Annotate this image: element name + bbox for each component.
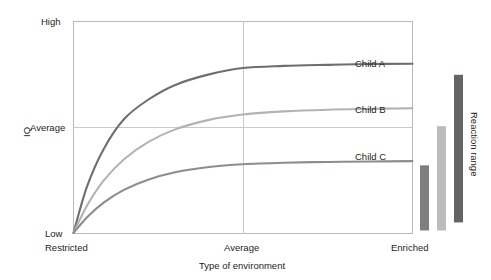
x-tick-average: Average — [224, 243, 259, 253]
x-tick-restricted: Restricted — [45, 243, 88, 253]
label-child-b: Child B — [355, 105, 386, 115]
label-child-a: Child A — [355, 59, 385, 69]
y-tick-average: Average — [30, 123, 65, 133]
reaction-range-bar-child-b — [437, 126, 446, 230]
reaction-range-bar-child-a — [454, 75, 463, 223]
y-axis-title: IQ — [22, 127, 32, 137]
chart-canvas — [0, 0, 491, 280]
x-tick-enriched: Enriched — [391, 243, 429, 253]
reaction-range-bar-child-c — [420, 165, 429, 230]
reaction-range-label: Reaction range — [470, 112, 480, 176]
label-child-c: Child C — [355, 152, 386, 162]
y-tick-low: Low — [45, 229, 62, 239]
y-tick-high: High — [41, 17, 61, 27]
x-axis-title: Type of environment — [199, 261, 285, 271]
reaction-range-figure: High Average Low IQ Restricted Average E… — [0, 0, 491, 280]
